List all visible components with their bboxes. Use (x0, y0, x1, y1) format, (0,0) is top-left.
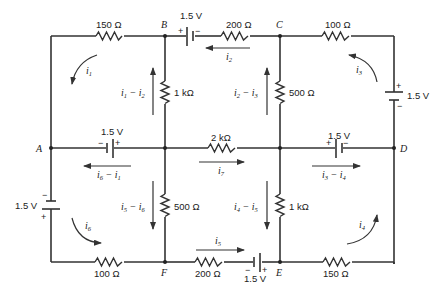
label-battery-left: 1.5 V (15, 200, 38, 211)
minus-battery-bottom-FE: − (245, 265, 250, 275)
resistor-100-top (322, 32, 349, 40)
resistor-500-C (276, 81, 284, 104)
label-1k-E: 1 kΩ (289, 201, 309, 212)
label-100-bottom: 100 Ω (94, 268, 120, 279)
plus-battery-middle-A: + (115, 138, 120, 148)
battery-right (385, 92, 403, 100)
label-i6-minus-i1: i6 − i1 (97, 169, 121, 181)
plus-battery-middle-D: + (326, 138, 331, 148)
battery-left (42, 201, 60, 209)
resistor-2k-middle (208, 144, 235, 152)
label-i1: i1 (86, 65, 92, 77)
label-i5-minus-i6: i5 − i6 (121, 201, 146, 213)
battery-top-BC (187, 27, 193, 46)
label-500-F: 500 Ω (174, 201, 200, 212)
current-labels: i1 i2 i3 i7 i6 i5 i4 i1 − i2 i2 − i3 i6 … (85, 51, 366, 247)
node-dot-A (49, 146, 53, 150)
label-150-top: 150 Ω (96, 19, 122, 30)
minus-battery-middle-A: − (98, 138, 103, 148)
label-i6: i6 (85, 220, 92, 232)
label-i2: i2 (226, 51, 233, 63)
minus-battery-left: − (42, 190, 47, 200)
resistor-100-bottom (95, 258, 122, 266)
plus-battery-left: + (41, 212, 46, 222)
label-i1-minus-i2: i1 − i2 (121, 87, 146, 99)
minus-battery-middle-D: − (343, 138, 348, 148)
resistor-150-top (96, 32, 122, 40)
label-i4: i4 (359, 219, 366, 231)
minus-battery-top-BC: − (195, 26, 200, 36)
label-2k-middle: 2 kΩ (211, 132, 231, 143)
resistor-1k-E (276, 194, 284, 217)
battery-bottom-FE (254, 253, 260, 272)
node-label-D: D (399, 143, 408, 154)
label-i3: i3 (356, 64, 363, 76)
node-dot-D (392, 146, 396, 150)
plus-battery-top-BC: + (178, 26, 183, 36)
battery-middle-A (107, 139, 113, 158)
label-150-bottom: 150 Ω (323, 268, 349, 279)
label-200-top: 200 Ω (226, 19, 252, 30)
battery-middle-D (336, 139, 342, 158)
resistor-200-top (221, 32, 248, 40)
node-label-F: F (160, 267, 168, 278)
resistor-1k-B (161, 81, 169, 104)
node-dot-C (278, 34, 282, 38)
node-label-E: E (275, 267, 282, 278)
arrow-mesh-i1 (72, 55, 97, 84)
junction-dots (49, 34, 396, 264)
label-i7: i7 (218, 165, 225, 177)
resistor-500-F (161, 194, 169, 217)
label-battery-right: 1.5 V (407, 90, 430, 101)
node-label-C: C (276, 19, 283, 30)
label-i5: i5 (215, 235, 222, 247)
plus-battery-bottom-FE: + (262, 265, 267, 275)
resistor-200-bottom (195, 258, 222, 266)
label-1k-B: 1 kΩ (174, 87, 194, 98)
battery-labels: 1.5 V + − 1.5 V + − 1.5 V − + 1.5 V + − … (15, 10, 430, 284)
node-dot-E (278, 260, 282, 264)
resistor-labels: 150 Ω 200 Ω 100 Ω 1 kΩ 500 Ω 2 kΩ 500 Ω … (94, 19, 351, 279)
label-i2-minus-i3: i2 − i3 (234, 87, 259, 99)
node-dot-F (163, 260, 167, 264)
label-i3-minus-i4: i3 − i4 (322, 169, 347, 181)
circuit-diagram: A B C D E F 150 Ω 200 Ω 100 Ω 1 kΩ 500 Ω… (0, 0, 448, 297)
label-i4-minus-i5: i4 − i5 (234, 201, 259, 213)
node-label-A: A (35, 143, 43, 154)
label-100-top: 100 Ω (325, 19, 351, 30)
batteries (42, 27, 403, 272)
label-200-bottom: 200 Ω (195, 268, 221, 279)
node-dot-B-mid (163, 146, 167, 150)
label-battery-top-BC: 1.5 V (180, 10, 203, 21)
node-dot-B (163, 34, 167, 38)
resistor-150-bottom (323, 258, 350, 266)
arrow-mesh-i3 (349, 55, 377, 82)
minus-battery-right: − (397, 101, 402, 111)
label-battery-middle-A: 1.5 V (101, 126, 124, 137)
node-dot-C-mid (278, 146, 282, 150)
resistors (95, 32, 350, 266)
label-500-C: 500 Ω (289, 87, 315, 98)
plus-battery-right: + (396, 81, 401, 91)
node-label-B: B (161, 19, 167, 30)
